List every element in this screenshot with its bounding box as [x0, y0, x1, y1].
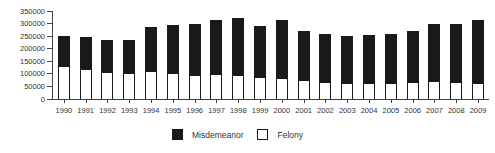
- bar-1996-felony: [189, 75, 201, 99]
- bar-group-1990: 1990: [53, 11, 75, 99]
- bar-group-1995: 1995: [162, 11, 184, 99]
- y-axis-tick-label: 0: [5, 95, 45, 104]
- bar-group-2007: 2007: [424, 11, 446, 99]
- x-axis-tick: [304, 99, 305, 103]
- bar-group-1998: 1998: [227, 11, 249, 99]
- bar-group-2001: 2001: [293, 11, 315, 99]
- y-axis-tick-label: 150000: [5, 57, 45, 66]
- bar-2000-misdemeanor: [276, 20, 288, 78]
- bar-2001-felony: [298, 80, 310, 99]
- x-axis-tick: [456, 99, 457, 103]
- bar-group-2006: 2006: [402, 11, 424, 99]
- legend: Misdemeanor Felony: [0, 129, 475, 140]
- x-axis-label-1991: 1991: [77, 106, 94, 115]
- plot-area: 0500001000001500002000002500003000003500…: [52, 11, 489, 100]
- bar-1992-felony: [101, 72, 113, 99]
- bar-1994-misdemeanor: [145, 27, 157, 71]
- bar-2002-misdemeanor: [319, 34, 331, 82]
- x-axis-tick: [238, 99, 239, 103]
- x-axis-label-2002: 2002: [317, 106, 334, 115]
- legend-swatch-misdemeanor: [172, 129, 183, 140]
- legend-label-misdemeanor: Misdemeanor: [192, 130, 244, 140]
- bar-2007-misdemeanor: [428, 24, 440, 81]
- x-axis-label-2009: 2009: [470, 106, 487, 115]
- x-axis-tick: [391, 99, 392, 103]
- bar-group-1994: 1994: [140, 11, 162, 99]
- bar-2007-felony: [428, 81, 440, 99]
- x-axis-label-2001: 2001: [295, 106, 312, 115]
- bar-1999-misdemeanor: [254, 26, 266, 77]
- x-axis-label-2008: 2008: [448, 106, 465, 115]
- bar-2009-misdemeanor: [472, 20, 484, 83]
- x-axis-label-1997: 1997: [208, 106, 225, 115]
- x-axis-tick: [347, 99, 348, 103]
- x-axis-tick: [86, 99, 87, 103]
- x-axis-tick: [129, 99, 130, 103]
- x-axis-label-1992: 1992: [99, 106, 116, 115]
- bar-1998-felony: [232, 75, 244, 99]
- bar-group-1991: 1991: [75, 11, 97, 99]
- bar-group-1992: 1992: [97, 11, 119, 99]
- x-axis-label-2007: 2007: [426, 106, 443, 115]
- x-axis-tick: [478, 99, 479, 103]
- x-axis-tick: [216, 99, 217, 103]
- x-axis-tick: [64, 99, 65, 103]
- bar-2005-felony: [385, 83, 397, 99]
- bar-group-2009: 2009: [467, 11, 489, 99]
- x-axis-tick: [325, 99, 326, 103]
- bar-group-2000: 2000: [271, 11, 293, 99]
- bar-2003-felony: [341, 83, 353, 99]
- bar-1997-misdemeanor: [210, 20, 222, 74]
- bar-2004-misdemeanor: [363, 35, 375, 83]
- bar-group-2004: 2004: [358, 11, 380, 99]
- stacked-bar-chart: 0500001000001500002000002500003000003500…: [0, 0, 495, 153]
- x-axis-label-1995: 1995: [165, 106, 182, 115]
- bar-1990-felony: [58, 66, 70, 99]
- x-axis-tick: [151, 99, 152, 103]
- bar-group-1999: 1999: [249, 11, 271, 99]
- bar-1991-misdemeanor: [80, 37, 92, 69]
- x-axis-label-2006: 2006: [404, 106, 421, 115]
- x-axis-label-2005: 2005: [383, 106, 400, 115]
- x-axis-tick: [173, 99, 174, 103]
- x-axis-label-2003: 2003: [339, 106, 356, 115]
- y-axis-tick-label: 200000: [5, 44, 45, 53]
- bar-1996-misdemeanor: [189, 24, 201, 75]
- bar-2009-felony: [472, 83, 484, 99]
- bar-1993-felony: [123, 73, 135, 99]
- y-axis-tick-label: 350000: [5, 7, 45, 16]
- bar-2005-misdemeanor: [385, 34, 397, 82]
- x-axis-label-1993: 1993: [121, 106, 138, 115]
- bar-2000-felony: [276, 78, 288, 99]
- bar-group-1997: 1997: [206, 11, 228, 99]
- bar-1998-misdemeanor: [232, 18, 244, 75]
- x-axis-tick: [282, 99, 283, 103]
- x-axis-tick: [260, 99, 261, 103]
- x-axis-tick: [434, 99, 435, 103]
- x-axis-label-1990: 1990: [56, 106, 73, 115]
- y-axis-tick-label: 100000: [5, 69, 45, 78]
- bar-group-2008: 2008: [445, 11, 467, 99]
- bar-1995-felony: [167, 73, 179, 99]
- bar-group-2003: 2003: [336, 11, 358, 99]
- legend-label-felony: Felony: [277, 130, 303, 140]
- bar-1997-felony: [210, 74, 222, 99]
- bar-2008-felony: [450, 82, 462, 99]
- x-axis-tick: [413, 99, 414, 103]
- bar-2003-misdemeanor: [341, 36, 353, 83]
- bar-1992-misdemeanor: [101, 40, 113, 72]
- x-axis-label-2000: 2000: [274, 106, 291, 115]
- bar-2008-misdemeanor: [450, 24, 462, 83]
- bar-1990-misdemeanor: [58, 36, 70, 66]
- bar-2006-misdemeanor: [407, 31, 419, 82]
- x-axis-tick: [195, 99, 196, 103]
- bar-1999-felony: [254, 77, 266, 99]
- y-axis-tick-label: 50000: [5, 82, 45, 91]
- bar-2006-felony: [407, 82, 419, 99]
- bar-1991-felony: [80, 69, 92, 99]
- x-axis-label-1999: 1999: [252, 106, 269, 115]
- bar-2004-felony: [363, 83, 375, 99]
- y-axis-tick-label: 300000: [5, 19, 45, 28]
- bar-2001-misdemeanor: [298, 31, 310, 80]
- x-axis-tick: [369, 99, 370, 103]
